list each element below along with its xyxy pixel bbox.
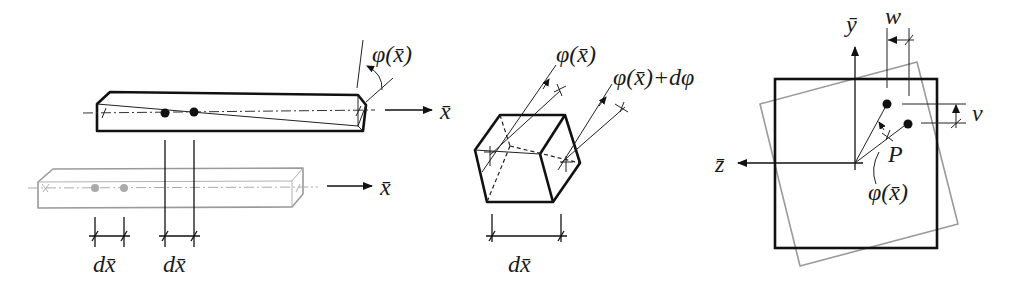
original-point xyxy=(883,100,892,109)
panel-beam-twist: x̄ φ(x̄) x̄ dx̄ xyxy=(28,40,451,277)
x-axis-label-top: x̄ xyxy=(439,98,451,124)
dimension-w: w xyxy=(885,3,914,96)
twist-rotated-line xyxy=(366,78,393,102)
angle-label: φ(x̄) xyxy=(868,179,908,205)
undeformed-point-2 xyxy=(120,184,128,192)
angle-label-right: φ(x̄)+dφ xyxy=(613,64,694,90)
y-axis-label: ȳ xyxy=(844,11,857,37)
point-1 xyxy=(161,109,170,118)
undeformed-beam xyxy=(28,168,318,208)
z-axis-label: z̄ xyxy=(714,151,725,177)
dimension-dx-left: dx̄ xyxy=(89,217,130,277)
x-axis-label-bottom: x̄ xyxy=(379,174,391,200)
twist-angle-label: φ(x̄) xyxy=(372,41,412,67)
dx-label-right: dx̄ xyxy=(163,251,186,277)
panel-element: φ(x̄) φ(x̄)+dφ dx̄ xyxy=(475,41,694,277)
point-label: P xyxy=(887,141,903,167)
twisted-beam xyxy=(83,92,375,131)
point-2 xyxy=(190,108,199,117)
angle-label-left: φ(x̄) xyxy=(556,41,596,67)
twist-angle-arc xyxy=(367,66,382,90)
w-label: w xyxy=(885,3,901,29)
dimension-v: v xyxy=(902,100,983,128)
dx-label-element: dx̄ xyxy=(508,251,531,277)
rotated-section xyxy=(760,62,958,266)
undeformed-point-1 xyxy=(91,184,99,192)
dx-label-left: dx̄ xyxy=(93,251,116,277)
panel-cross-section: ȳ z̄ P φ(x̄) w v xyxy=(714,3,983,266)
twist-reference-line xyxy=(357,40,363,88)
v-label: v xyxy=(972,100,983,126)
dimension-dx-element: dx̄ xyxy=(486,214,567,277)
displaced-point xyxy=(904,120,913,129)
torsion-diagram: x̄ φ(x̄) x̄ dx̄ xyxy=(0,0,1013,288)
